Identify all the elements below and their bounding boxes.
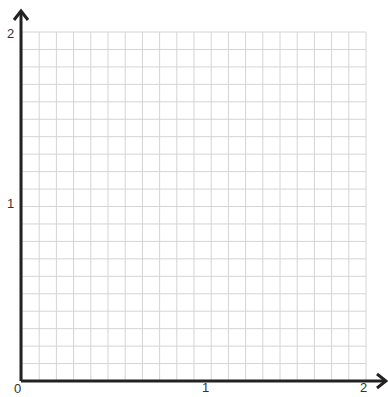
- grid-lines: [22, 32, 366, 381]
- y-tick-2: 2: [7, 26, 14, 41]
- axes: [14, 11, 386, 388]
- x-tick-1: 1: [202, 380, 209, 395]
- y-tick-1: 1: [7, 196, 14, 211]
- coordinate-grid: [0, 0, 388, 397]
- x-tick-0: 0: [14, 381, 21, 396]
- x-tick-2: 2: [360, 380, 367, 395]
